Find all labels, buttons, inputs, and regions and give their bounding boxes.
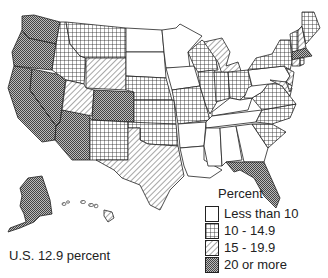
legend-item-20plus: 20 or more bbox=[205, 256, 298, 273]
state-hi-3 bbox=[81, 200, 86, 203]
legend-item-lt10: Less than 10 bbox=[205, 205, 298, 222]
legend-label: 15 - 19.9 bbox=[224, 240, 275, 255]
state-ar bbox=[178, 122, 206, 148]
state-ri bbox=[300, 58, 304, 66]
legend-label: 20 or more bbox=[224, 257, 287, 272]
swatch-dots bbox=[205, 257, 219, 273]
state-fl bbox=[226, 162, 280, 208]
state-nd bbox=[126, 28, 164, 52]
state-hi-2 bbox=[67, 201, 70, 203]
state-sd bbox=[126, 52, 166, 78]
state-vt bbox=[290, 30, 298, 52]
state-hi-5 bbox=[94, 204, 98, 208]
legend-item-15-19: 15 - 19.9 bbox=[205, 239, 298, 256]
state-hi-4 bbox=[89, 203, 94, 206]
state-me bbox=[302, 12, 320, 44]
state-wy bbox=[86, 58, 126, 90]
state-ms bbox=[204, 128, 222, 166]
us-total-label: U.S. 12.9 percent bbox=[9, 248, 110, 263]
swatch-grid bbox=[205, 223, 219, 239]
swatch-blank bbox=[205, 206, 219, 222]
state-hi-6 bbox=[104, 210, 114, 222]
state-in bbox=[214, 72, 230, 102]
state-nm bbox=[90, 118, 128, 160]
swatch-diagonal bbox=[205, 240, 219, 256]
state-ks bbox=[134, 100, 176, 124]
legend-label: 10 - 14.9 bbox=[224, 223, 275, 238]
legend-label: Less than 10 bbox=[224, 206, 298, 221]
state-co bbox=[92, 90, 134, 122]
state-ny bbox=[248, 40, 292, 70]
legend-title: Percent bbox=[218, 186, 263, 201]
state-ak bbox=[8, 176, 52, 232]
state-hi-1 bbox=[62, 203, 66, 206]
legend: Less than 10 10 - 14.9 15 - 19.9 20 or m… bbox=[205, 205, 298, 273]
legend-item-10-14: 10 - 14.9 bbox=[205, 222, 298, 239]
